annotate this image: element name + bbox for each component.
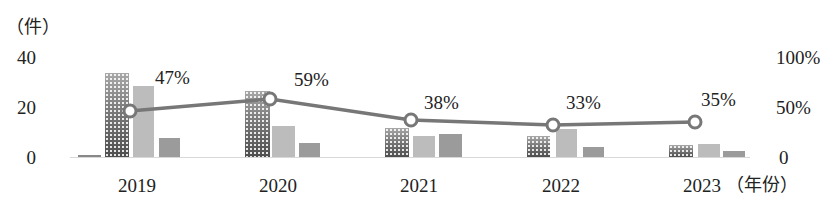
x-label-2021: 2021 xyxy=(400,176,438,195)
marker-2021 xyxy=(405,114,417,126)
marker-2022 xyxy=(547,119,559,131)
pct-label-2022: 33% xyxy=(566,93,601,112)
x-axis-unit: （年份） xyxy=(726,176,798,194)
marker-2019 xyxy=(124,105,136,117)
marker-2020 xyxy=(264,93,276,105)
x-label-2022: 2022 xyxy=(542,176,580,195)
x-label-2020: 2020 xyxy=(259,176,297,195)
x-label-2023: 2023 xyxy=(683,176,721,195)
pct-label-2023: 35% xyxy=(701,90,736,109)
x-label-2019: 2019 xyxy=(118,176,156,195)
marker-2023 xyxy=(689,116,701,128)
pct-label-2021: 38% xyxy=(424,93,459,112)
combo-chart: （件） 40 20 0 100% 50% 0 47% 59% 38% 33% 3… xyxy=(0,0,838,216)
pct-label-2020: 59% xyxy=(294,70,329,89)
pct-label-2019: 47% xyxy=(155,68,190,87)
